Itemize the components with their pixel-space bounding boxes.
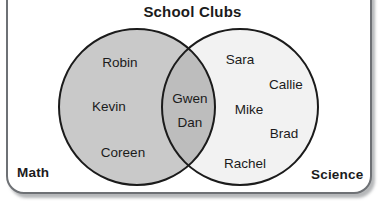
set-label-science: Science [311,168,363,182]
venn-member-coreen: Coreen [101,146,145,160]
venn-member-rachel: Rachel [224,157,266,171]
venn-member-callie: Callie [269,78,303,92]
venn-diagram-figure: School Clubs Math Science RobinKevinCore… [0,0,385,209]
venn-member-mike: Mike [235,103,264,117]
venn-member-dan: Dan [178,116,203,130]
venn-member-kevin: Kevin [92,100,126,114]
venn-member-brad: Brad [270,127,299,141]
venn-member-sara: Sara [226,53,255,67]
page-title: School Clubs [0,4,385,19]
venn-member-robin: Robin [102,56,137,70]
set-label-math: Math [17,166,49,180]
venn-member-gwen: Gwen [172,92,207,106]
